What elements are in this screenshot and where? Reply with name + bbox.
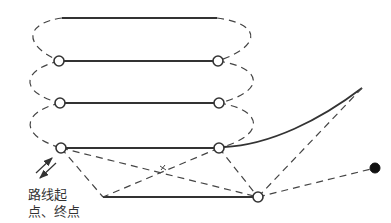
- start-end-arrows-icon: [36, 158, 56, 178]
- node-bottom: [253, 192, 263, 202]
- start-end-label: 路线起 点、终点: [28, 186, 80, 220]
- node-left-2: [55, 98, 65, 108]
- route-nodes: [54, 56, 380, 202]
- left-loops: [30, 18, 62, 148]
- node-right-3: [214, 143, 224, 153]
- node-right-2: [214, 98, 224, 108]
- node-right-1: [213, 56, 223, 66]
- node-left-1: [54, 56, 64, 66]
- node-filled-depot: [370, 163, 380, 173]
- curved-route: [224, 88, 362, 147]
- start-end-label-line1: 路线起: [28, 186, 80, 203]
- crossing-mark: [160, 165, 166, 170]
- start-end-label-line2: 点、终点: [28, 203, 80, 220]
- solid-route-lines: [62, 18, 362, 197]
- node-start-end: [56, 143, 66, 153]
- right-loops: [217, 18, 254, 148]
